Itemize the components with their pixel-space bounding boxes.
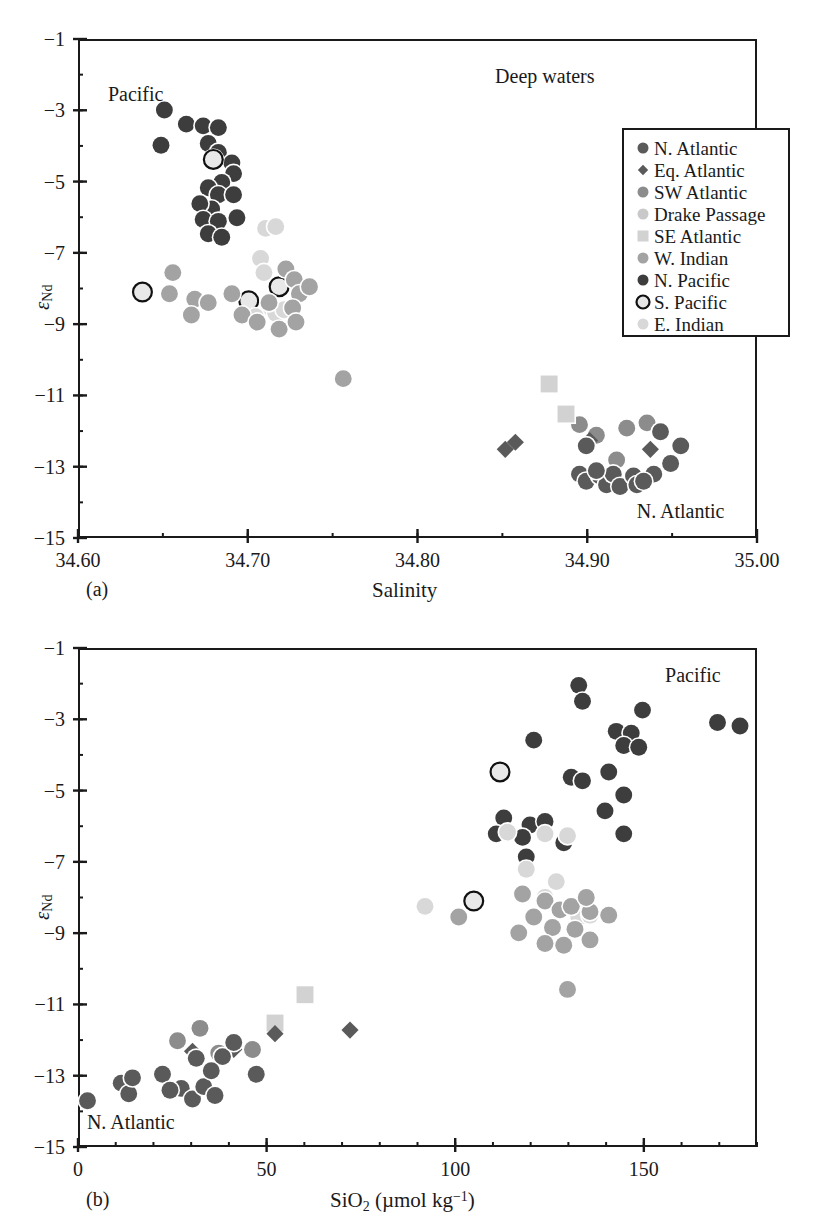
data-point [537,825,554,842]
data-point [537,935,554,952]
data-point [297,986,314,1003]
x-tick-label: 35.00 [735,550,780,570]
y-tick-label: −13 [34,1066,65,1086]
plot-annotation: N. Atlantic [637,500,725,523]
plot-annotation: Pacific [108,83,164,106]
data-point [525,732,542,749]
y-tick-label: −1 [44,29,65,49]
legend-box: N. AtlanticEq. AtlanticSW AtlanticDrake … [622,128,790,337]
series-n-pacific [151,100,247,247]
data-point [120,1085,137,1102]
epsilon-symbol: ε [30,912,54,920]
data-point [200,294,217,311]
data-point [600,907,617,924]
data-point [301,278,318,295]
panel-a: 34.6034.7034.8034.9035.00 −15−13−11−9−7−… [0,0,813,620]
data-point [225,1034,242,1051]
data-point [615,825,632,842]
legend-item-n-pacific[interactable]: N. Pacific [632,269,778,291]
legend-symbol [638,275,649,286]
data-point [124,1069,141,1086]
data-point [464,892,483,911]
panel-b-label: (b) [86,1188,109,1211]
data-point [248,1066,265,1083]
panel-b-data-layer [80,650,755,1145]
legend-item-drake-passage[interactable]: Drake Passage [632,203,778,225]
panel-a-y-axis-title: εNd [30,285,56,310]
legend-symbol [638,209,649,220]
legend-item-label: W. Indian [654,249,728,268]
data-point [541,376,558,393]
legend-item-se-atlantic[interactable]: SE Atlantic [632,225,778,247]
data-point [597,802,614,819]
data-point [559,981,576,998]
legend-item-label: Eq. Atlantic [654,161,745,180]
legend-item-s-pacific[interactable]: S. Pacific [632,291,778,313]
legend-marker-icon [632,161,654,179]
y-tick-label: −7 [44,852,65,872]
unit-close: ) [468,1188,475,1212]
x-tick-label: 150 [629,1159,659,1179]
panel-b-y-axis-title: εNd [30,895,56,920]
y-tick-label: −5 [44,172,65,192]
data-point [558,406,575,423]
data-point [162,1082,179,1099]
data-point [635,473,652,490]
x-tick-label: 34.90 [565,550,610,570]
data-point [335,370,352,387]
data-point [153,137,170,154]
y-tick-label: −13 [34,457,65,477]
legend-item-label: SE Atlantic [654,227,741,246]
data-point [574,772,591,789]
legend-symbol [638,253,649,264]
y-tick-label: −15 [34,528,65,548]
data-point [544,919,561,936]
legend-marker-icon [632,205,654,223]
y-tick-label: −15 [34,1137,65,1157]
series-se-atlantic [265,985,315,1033]
epsilon-symbol: ε [30,302,54,310]
series-n-pacific [486,675,750,867]
data-point [588,462,605,479]
data-point [161,285,178,302]
legend-marker-icon [632,183,654,201]
data-point [267,218,284,235]
data-point [567,921,584,938]
panel-b-x-axis-title: SiO2 (µmol kg−1) [330,1188,475,1215]
plot-annotation: N. Atlantic [87,1111,175,1134]
legend-item-sw-atlantic[interactable]: SW Atlantic [632,181,778,203]
legend-item-eq-atlantic[interactable]: Eq. Atlantic [632,159,778,181]
y-tick-label: −3 [44,100,65,120]
data-point [615,787,632,804]
data-point [499,824,516,841]
data-point [154,1066,171,1083]
legend-marker-icon [632,315,654,333]
legend-item-w-indian[interactable]: W. Indian [632,247,778,269]
data-point [652,423,669,440]
data-point [244,1041,261,1058]
legend-item-label: N. Pacific [654,271,730,290]
data-point [204,150,223,169]
data-point [192,1020,209,1037]
data-point [570,677,587,694]
series-se-atlantic [539,374,576,424]
data-point [271,321,288,338]
legend-item-e-indian[interactable]: E. Indian [632,313,778,335]
y-tick-label: −5 [44,781,65,801]
nd-subscript: Nd [40,285,55,302]
unit-exponent: −1 [453,1189,468,1204]
data-point [228,209,245,226]
data-point [555,937,572,954]
data-point [261,294,278,311]
data-point [178,116,195,133]
panel-a-label: (a) [86,578,108,601]
legend-item-n-atlantic[interactable]: N. Atlantic [632,137,778,159]
y-tick-label: −11 [34,994,65,1014]
data-point [662,455,679,472]
data-point [169,1032,186,1049]
data-point [341,1022,358,1039]
y-tick-label: −7 [44,243,65,263]
data-point [732,718,749,735]
data-point [525,909,542,926]
legend-symbol [637,296,650,309]
